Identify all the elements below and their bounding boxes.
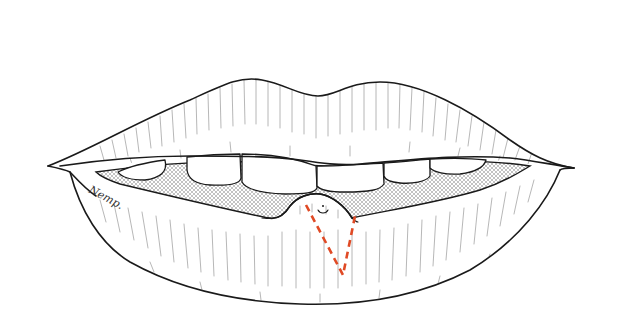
- tooth-right-central: [317, 163, 384, 192]
- artist-signature: Nemp.: [86, 183, 126, 212]
- lip-drawing: Nemp.: [0, 0, 619, 321]
- lip-illustration: Nemp.: [0, 0, 619, 321]
- lower-lip-texture: [100, 180, 534, 302]
- tooth-right-lateral: [384, 159, 430, 183]
- tooth-left-canine: [187, 154, 241, 185]
- upper-lip-texture: [100, 80, 532, 164]
- lesion-dot: [322, 205, 324, 207]
- tooth-left-central: [242, 154, 317, 194]
- lesion-center-mark: [318, 210, 328, 213]
- upper-lip-outline: [48, 79, 574, 168]
- upper-lip: [48, 79, 574, 168]
- mouth-corner-right: [560, 168, 574, 170]
- wedge-excision-outline: [306, 205, 355, 275]
